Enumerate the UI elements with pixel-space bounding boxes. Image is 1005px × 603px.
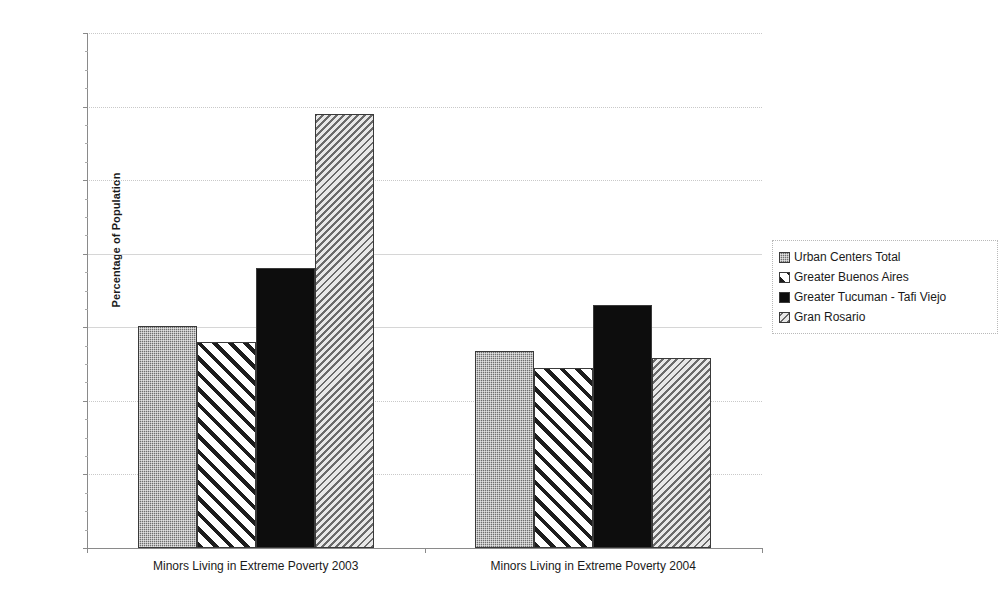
- x-tick-mark: [762, 549, 763, 553]
- y-tick-minor: [85, 438, 88, 439]
- y-tick-minor: [85, 346, 88, 347]
- y-tick-minor: [85, 217, 88, 218]
- gridline: [87, 33, 762, 34]
- legend-item[interactable]: Gran Rosario: [779, 307, 990, 327]
- legend-label: Urban Centers Total: [794, 251, 901, 264]
- bar: [593, 305, 652, 548]
- legend-swatch-icon: [779, 292, 790, 303]
- y-tick-minor: [85, 51, 88, 52]
- legend-label: Greater Tucuman - Tafi Viejo: [794, 291, 946, 304]
- x-category-label: Minors Living in Extreme Poverty 2004: [425, 559, 763, 573]
- y-tick-minor: [85, 235, 88, 236]
- bar: [475, 351, 534, 548]
- y-tick-minor: [85, 88, 88, 89]
- y-tick-mark: [83, 474, 88, 475]
- bar: [652, 358, 711, 548]
- y-tick-mark: [83, 254, 88, 255]
- legend-swatch-icon: [779, 272, 790, 283]
- bar: [197, 342, 256, 548]
- y-tick-minor: [85, 511, 88, 512]
- legend-item[interactable]: Greater Tucuman - Tafi Viejo: [779, 287, 990, 307]
- y-tick-minor: [85, 493, 88, 494]
- bar-chart: Percentage of Population 0%10%20%30%40%5…: [0, 0, 1005, 603]
- bar: [315, 114, 374, 548]
- legend-label: Greater Buenos Aires: [794, 271, 909, 284]
- bar: [256, 268, 315, 548]
- x-category-label: Minors Living in Extreme Poverty 2003: [87, 559, 425, 573]
- y-tick-minor: [85, 162, 88, 163]
- legend-label: Gran Rosario: [794, 311, 865, 324]
- legend-item[interactable]: Urban Centers Total: [779, 247, 990, 267]
- gridline: [87, 254, 762, 255]
- legend-item[interactable]: Greater Buenos Aires: [779, 267, 990, 287]
- bar: [138, 326, 197, 548]
- bar: [534, 368, 593, 548]
- y-tick-mark: [83, 401, 88, 402]
- x-tick-mark: [425, 549, 426, 553]
- gridline: [87, 180, 762, 181]
- y-tick-mark: [83, 327, 88, 328]
- y-tick-mark: [83, 180, 88, 181]
- legend-swatch-icon: [779, 312, 790, 323]
- y-tick-minor: [85, 530, 88, 531]
- legend: Urban Centers TotalGreater Buenos AiresG…: [772, 240, 998, 334]
- y-tick-minor: [85, 272, 88, 273]
- gridline: [87, 107, 762, 108]
- plot-area: [87, 33, 762, 548]
- y-tick-minor: [85, 291, 88, 292]
- y-tick-mark: [83, 107, 88, 108]
- y-tick-minor: [85, 143, 88, 144]
- y-tick-minor: [85, 309, 88, 310]
- y-tick-minor: [85, 456, 88, 457]
- y-tick-mark: [83, 33, 88, 34]
- legend-swatch-icon: [779, 252, 790, 263]
- y-tick-minor: [85, 199, 88, 200]
- y-tick-minor: [85, 70, 88, 71]
- y-tick-minor: [85, 382, 88, 383]
- y-tick-minor: [85, 419, 88, 420]
- x-tick-mark: [87, 549, 88, 553]
- y-tick-minor: [85, 125, 88, 126]
- y-tick-minor: [85, 364, 88, 365]
